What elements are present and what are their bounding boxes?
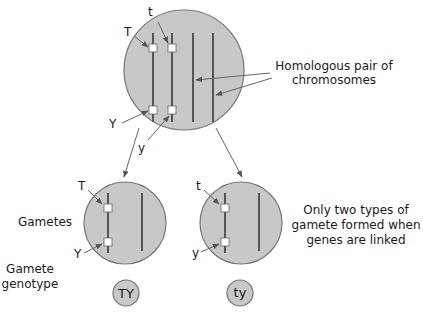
parent-cell-body (124, 10, 244, 130)
note-line1: Only two types of (303, 203, 409, 217)
label-Y: Y (108, 117, 117, 131)
genotype-badge-ty: ty (227, 280, 253, 306)
parent-cell (124, 10, 244, 130)
genotype-text: TY (117, 286, 134, 301)
genotype-badge-TY: TY (113, 280, 139, 306)
label-t: t (148, 5, 153, 19)
note-line3: genes are linked (306, 233, 405, 247)
label-y: y (138, 141, 145, 155)
gamete-cell-body (84, 182, 166, 264)
gamete-genotype-label-line2: genotype (2, 277, 59, 291)
homologous-label-line1: Homologous pair of (275, 59, 393, 73)
gene-locus-t (168, 44, 176, 52)
gametes-label: Gametes (18, 215, 72, 229)
genotype-text: ty (234, 285, 247, 300)
note-line2: gamete formed when (291, 218, 420, 232)
gamete-cell-ty (200, 182, 282, 264)
linked-genes-diagram: T t Y y Homologous pair of chromosomes T… (0, 0, 423, 314)
gene-locus-T (149, 44, 157, 52)
gene-locus-t (221, 204, 229, 212)
label-T: T (123, 25, 132, 39)
arrow-to-gamete-ty (216, 128, 242, 177)
homologous-label-line2: chromosomes (292, 73, 376, 87)
gene-locus-Y (104, 238, 112, 246)
gamete-cell-TY (84, 182, 166, 264)
gene-locus-Y (149, 106, 157, 114)
gamete1-label-T: T (77, 179, 86, 193)
gamete1-label-Y: Y (73, 247, 82, 261)
gamete2-label-y: y (192, 246, 199, 260)
gamete-cell-body (200, 182, 282, 264)
gene-locus-T (104, 204, 112, 212)
arrow-Y (122, 111, 148, 123)
gamete-genotype-label-line1: Gamete (6, 262, 54, 276)
gamete2-label-t: t (196, 179, 201, 193)
gene-locus-y (168, 106, 176, 114)
arrow-to-gamete-TY (124, 128, 139, 177)
gene-locus-y (221, 238, 229, 246)
